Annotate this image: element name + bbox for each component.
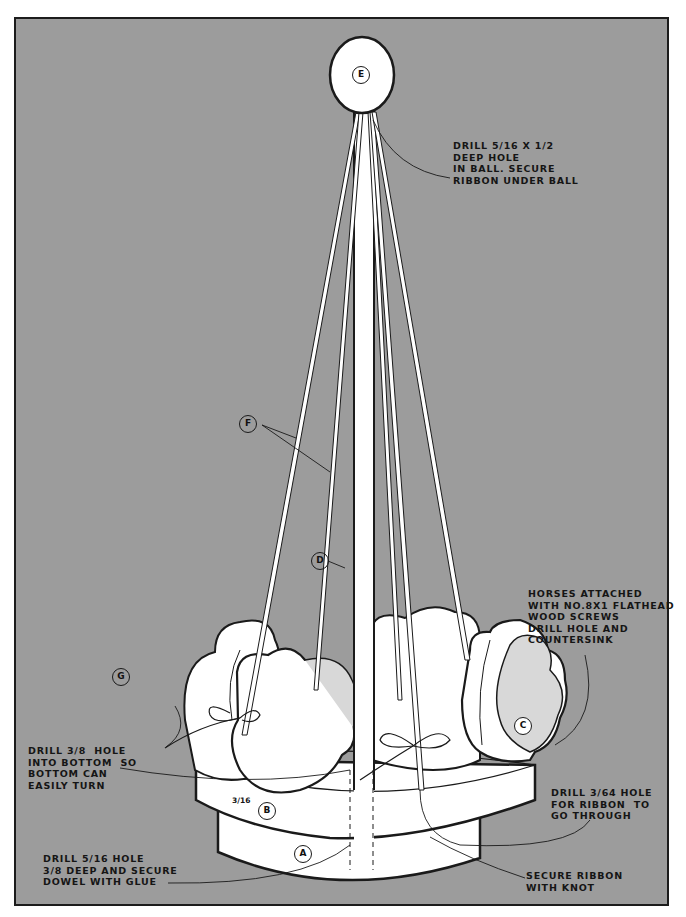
callout-e: E bbox=[352, 66, 370, 84]
dimension-label: 3/16 bbox=[232, 796, 250, 805]
callout-f: F bbox=[239, 415, 257, 433]
note-ribbon-hole: DRILL 3/64 HOLE FOR RIBBON TO GO THROUGH bbox=[551, 787, 652, 822]
note-bottom-hole: DRILL 3/8 HOLE INTO BOTTOM SO BOTTOM CAN… bbox=[28, 745, 137, 791]
note-horses-attached: HORSES ATTACHED WITH NO.8X1 FLATHEAD WOO… bbox=[528, 588, 674, 646]
callout-d: D bbox=[311, 552, 329, 570]
note-ball-hole: DRILL 5/16 X 1/2 DEEP HOLE IN BALL. SECU… bbox=[453, 140, 579, 186]
callout-a: A bbox=[294, 845, 312, 863]
note-dowel-hole: DRILL 5/16 HOLE 3/8 DEEP AND SECURE DOWE… bbox=[43, 853, 178, 888]
callout-b: B bbox=[258, 802, 276, 820]
callout-c: C bbox=[514, 717, 532, 735]
note-knot: SECURE RIBBON WITH KNOT bbox=[526, 870, 623, 893]
callout-g: G bbox=[112, 668, 130, 686]
